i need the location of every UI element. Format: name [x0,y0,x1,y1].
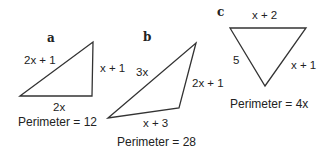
triangle-b-label: b [143,30,151,44]
triangle-c-side-left: 5 [233,54,239,66]
triangle-a-shape [20,42,93,96]
triangle-c-side-right: x + 1 [291,59,316,71]
triangle-b-perimeter: Perimeter = 28 [117,135,196,149]
triangle-b-shape [108,43,196,118]
triangle-c-perimeter: Perimeter = 4x [230,97,308,111]
triangle-a-label: a [47,31,55,45]
triangle-b-side-left: 3x [136,66,148,78]
triangle-b-side-right: 2x + 1 [192,77,224,89]
triangle-b-side-bottom: x + 3 [143,117,168,129]
triangle-a-side-right: x + 1 [100,62,125,74]
triangle-b: b 3x 2x + 1 x + 3 Perimeter = 28 [108,30,224,149]
triangles-diagram: a 2x + 1 x + 1 2x Perimeter = 12 b 3x 2x… [0,0,332,157]
triangle-a-perimeter: Perimeter = 12 [18,115,97,129]
triangle-c-label: c [217,5,224,19]
triangle-a-side-hypotenuse: 2x + 1 [24,54,56,66]
triangle-a-side-bottom: 2x [53,101,65,113]
triangle-c-shape [230,28,306,86]
triangle-c-side-top: x + 2 [252,9,277,21]
triangle-c: c x + 2 5 x + 1 Perimeter = 4x [217,5,316,111]
triangle-a: a 2x + 1 x + 1 2x Perimeter = 12 [18,31,125,129]
